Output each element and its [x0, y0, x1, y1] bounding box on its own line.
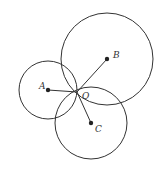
label-b: B [112, 50, 120, 60]
diagram-svg: A B C O [0, 0, 167, 173]
label-a: A [38, 81, 46, 91]
point-a [46, 88, 50, 92]
label-o: O [82, 91, 90, 101]
label-c: C [95, 124, 102, 134]
point-c [89, 121, 93, 125]
geometry-diagram: A B C O [0, 0, 167, 173]
point-b [105, 57, 109, 61]
